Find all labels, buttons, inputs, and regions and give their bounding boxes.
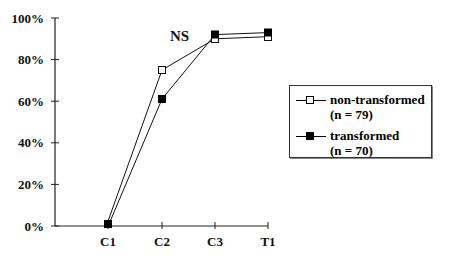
x-label-c1: C1 <box>100 234 116 249</box>
filled-square-icon <box>306 132 314 140</box>
ns-annotation: NS <box>170 28 189 44</box>
y-tick-labels: 0% 20% 40% 60% 80% 100% <box>12 11 45 234</box>
series-non-transformed-line <box>107 37 268 224</box>
series-transformed-markers <box>105 29 272 228</box>
x-label-c2: C2 <box>154 234 170 249</box>
legend: non-transformed (n = 79) transformed (n … <box>289 85 432 158</box>
y-label-100: 100% <box>12 11 45 26</box>
x-label-c3: C3 <box>207 234 223 249</box>
legend-label: non-transformed (n = 79) <box>330 92 425 122</box>
x-label-t1: T1 <box>260 234 275 249</box>
y-label-20: 20% <box>18 177 44 192</box>
y-label-40: 40% <box>18 135 44 150</box>
y-label-60: 60% <box>18 94 44 109</box>
y-label-80: 80% <box>18 52 44 67</box>
open-square-icon <box>306 96 314 104</box>
x-tick-labels: C1 C2 C3 T1 <box>100 234 276 249</box>
series-transformed-line <box>109 33 268 224</box>
legend-label: transformed (n = 70) <box>330 128 399 158</box>
y-label-0: 0% <box>25 219 45 234</box>
